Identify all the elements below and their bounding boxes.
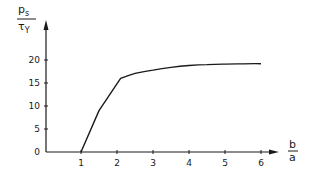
x-tick-label: 1 (78, 158, 84, 168)
y-tick-label: 5 (34, 124, 40, 134)
chart: 05101520 123456 ps τY b a (0, 0, 311, 174)
x-tick-label: 4 (186, 158, 192, 168)
x-axis-label: b a (288, 138, 298, 164)
y-tick-label: 15 (29, 78, 40, 88)
axes (44, 20, 280, 155)
x-tick-label: 2 (114, 158, 120, 168)
y-tick-label: 20 (29, 55, 41, 65)
x-tick-label: 5 (222, 158, 228, 168)
y-label-denominator: τY (18, 20, 30, 35)
x-axis-arrow-icon (269, 150, 279, 155)
x-label-denominator: a (289, 151, 296, 164)
y-axis-label: ps τY (17, 3, 36, 35)
y-tick-label: 0 (34, 147, 40, 157)
data-curve (81, 64, 261, 152)
x-ticks: 123456 (78, 150, 264, 168)
y-label-numerator: ps (18, 3, 29, 18)
y-ticks: 05101520 (29, 55, 48, 157)
y-tick-label: 10 (29, 101, 41, 111)
x-tick-label: 6 (258, 158, 264, 168)
y-axis-arrow-icon (44, 20, 49, 30)
x-tick-label: 3 (150, 158, 156, 168)
x-label-numerator: b (289, 138, 296, 151)
